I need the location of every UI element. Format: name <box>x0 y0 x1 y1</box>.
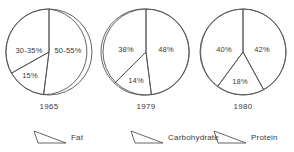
pie-1965-label-protein: 15% <box>22 71 38 80</box>
pie-1965-year: 1965 <box>40 102 59 111</box>
pie-1965-label-fat: 30-35% <box>15 46 42 55</box>
pie-1979-label-fat: 38% <box>118 45 134 54</box>
pie-1979-label-carbohydrate: 48% <box>158 45 174 54</box>
pie-1980-label-carbohydrate: 42% <box>254 45 270 54</box>
legend-label-protein: Protein <box>251 133 278 142</box>
pie-1980-year: 1980 <box>234 102 253 111</box>
pie-1980-label-protein: 18% <box>232 77 248 86</box>
pie-1980-label-fat: 40% <box>216 45 232 54</box>
pie-1979-year: 1979 <box>137 102 156 111</box>
pie-1965-label-carbohydrate: 50-55% <box>54 46 81 55</box>
legend-label-carbohydrate: Carbohydrate <box>168 133 219 142</box>
figure-background <box>0 0 294 152</box>
legend-label-fat: Fat <box>71 133 84 142</box>
nutrient-composition-pie-figure: 50-55% 15% 30-35% 1965 48% 14% 38% 1979 … <box>0 0 294 152</box>
pie-1979-label-protein: 14% <box>128 76 144 85</box>
